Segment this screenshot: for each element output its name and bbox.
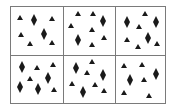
- cell-1-1: [69, 59, 107, 98]
- diamond-icon: [100, 69, 106, 81]
- triangle-icon: [27, 76, 33, 81]
- triangle-icon: [18, 32, 24, 37]
- triangle-icon: [124, 37, 130, 42]
- triangle-icon: [92, 82, 98, 87]
- triangle-icon: [139, 62, 145, 67]
- triangle-icon: [89, 59, 95, 64]
- cell-0-1: [68, 11, 107, 47]
- diamond-icon: [100, 15, 106, 27]
- cell-0-0: [17, 14, 55, 46]
- diamond-icon: [31, 14, 37, 26]
- diamond-icon: [41, 28, 47, 40]
- triangle-icon: [101, 88, 107, 93]
- triangle-icon: [121, 90, 127, 95]
- triangle-icon: [50, 62, 56, 67]
- triangle-icon: [142, 11, 148, 16]
- triangle-icon: [75, 11, 81, 16]
- triangle-icon: [27, 41, 33, 46]
- triangle-icon: [49, 40, 55, 45]
- cell-0-2: [124, 11, 160, 49]
- triangle-icon: [146, 93, 152, 98]
- triangle-icon: [49, 16, 55, 21]
- cell-1-2: [121, 62, 159, 98]
- diamond-icon: [75, 34, 81, 46]
- triangle-icon: [141, 77, 147, 82]
- triangle-icon: [17, 15, 23, 20]
- triangle-icon: [69, 81, 75, 86]
- diamond-icon: [153, 16, 159, 28]
- diamond-icon: [80, 86, 86, 98]
- triangle-icon: [90, 11, 96, 16]
- triangle-icon: [154, 41, 160, 46]
- triangle-icon: [89, 42, 95, 47]
- diamond-icon: [73, 62, 79, 74]
- cell-1-0: [17, 61, 57, 95]
- diamond-icon: [124, 16, 130, 28]
- triangle-icon: [89, 27, 95, 32]
- triangle-icon: [34, 65, 40, 70]
- shapes-layer: [0, 0, 177, 112]
- triangle-icon: [84, 70, 90, 75]
- diamond-icon: [19, 61, 25, 73]
- triangle-icon: [51, 87, 57, 92]
- diamond-icon: [145, 32, 151, 44]
- triangle-icon: [121, 63, 127, 68]
- diamond-icon: [153, 68, 159, 80]
- triangle-icon: [101, 35, 107, 40]
- diamond-icon: [45, 72, 51, 84]
- triangle-icon: [136, 24, 142, 29]
- diamond-icon: [127, 74, 133, 86]
- triangle-icon: [68, 23, 74, 28]
- diamond-icon: [17, 81, 23, 93]
- triangle-icon: [135, 44, 141, 49]
- diamond-icon: [35, 83, 41, 95]
